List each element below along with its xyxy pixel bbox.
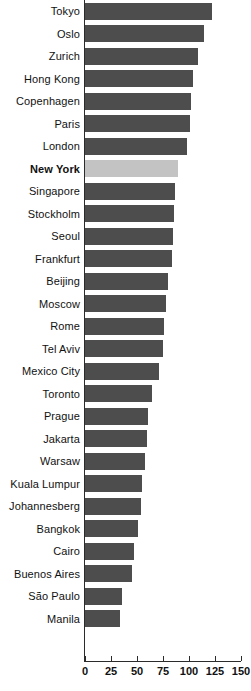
- bar-row-label: Warsaw: [40, 450, 80, 473]
- bar-row-label: Toronto: [43, 383, 80, 406]
- x-axis-tick-label: 150: [232, 665, 250, 677]
- bar-row-label: Prague: [44, 405, 80, 428]
- bar: [85, 48, 198, 65]
- bar: [85, 93, 191, 110]
- bar: [85, 250, 172, 267]
- bar-row: Hong Kong: [0, 68, 251, 91]
- x-axis-tick-label: 75: [157, 665, 169, 677]
- bar: [85, 295, 166, 312]
- bar-row: Rome: [0, 315, 251, 338]
- bar-row: Prague: [0, 405, 251, 428]
- bar-row-label: Paris: [54, 113, 80, 136]
- bar: [85, 610, 120, 627]
- bar-row: Tel Aviv: [0, 338, 251, 361]
- bar-row: Kuala Lumpur: [0, 473, 251, 496]
- bar-row: Stockholm: [0, 203, 251, 226]
- bar-rows: TokyoOsloZurichHong KongCopenhagenParisL…: [0, 0, 251, 630]
- x-axis-line: [85, 661, 241, 662]
- bar-row-label: São Paulo: [28, 585, 80, 608]
- bar: [85, 25, 204, 42]
- bar-row-label: Hong Kong: [24, 68, 80, 91]
- bar-row-label: Rome: [50, 315, 80, 338]
- bar-track: [85, 248, 251, 271]
- x-axis-tick-mark: [215, 656, 216, 661]
- bar-row-label: Seoul: [51, 225, 80, 248]
- bar-track: [85, 473, 251, 496]
- bar-track: [85, 23, 251, 46]
- bar-row-label: Buenos Aires: [14, 563, 80, 586]
- bar: [85, 228, 173, 245]
- bar-track: [85, 293, 251, 316]
- bar-row-label: Zurich: [49, 45, 80, 68]
- bar-row: Moscow: [0, 293, 251, 316]
- x-axis-tick-mark: [241, 656, 242, 661]
- bar-track: [85, 383, 251, 406]
- bar-track: [85, 203, 251, 226]
- bar-track: [85, 180, 251, 203]
- bar: [85, 273, 168, 290]
- bar-track: [85, 518, 251, 541]
- bar-row-label: Tokyo: [51, 0, 80, 23]
- bar: [85, 160, 178, 177]
- bar: [85, 565, 132, 582]
- bar-row: Bangkok: [0, 518, 251, 541]
- x-axis-tick-mark: [189, 656, 190, 661]
- bar-row: Oslo: [0, 23, 251, 46]
- x-axis-tick-label: 100: [180, 665, 198, 677]
- bar-track: [85, 225, 251, 248]
- bar-row-label: London: [43, 135, 80, 158]
- bar-row-label: Mexico City: [22, 360, 80, 383]
- bar-row: Seoul: [0, 225, 251, 248]
- x-axis-tick-mark: [85, 656, 86, 661]
- bar: [85, 318, 164, 335]
- x-axis-tick-mark: [163, 656, 164, 661]
- bar-track: [85, 608, 251, 631]
- bar-row-label: Stockholm: [28, 203, 80, 226]
- bar-row: Singapore: [0, 180, 251, 203]
- bar-track: [85, 360, 251, 383]
- bar: [85, 385, 152, 402]
- x-axis: 0255075100125150: [0, 661, 251, 691]
- x-axis-tick-label: 0: [82, 665, 88, 677]
- bar-row: Frankfurt: [0, 248, 251, 271]
- bar-track: [85, 450, 251, 473]
- bar-row-label: Moscow: [39, 293, 80, 316]
- bar-track: [85, 158, 251, 181]
- bar-row: Beijing: [0, 270, 251, 293]
- bar: [85, 363, 159, 380]
- bar-track: [85, 113, 251, 136]
- bar: [85, 138, 187, 155]
- x-axis-tick-label: 50: [131, 665, 143, 677]
- bar: [85, 430, 147, 447]
- bar-track: [85, 45, 251, 68]
- bar-track: [85, 495, 251, 518]
- bar-row-label: Frankfurt: [35, 248, 80, 271]
- bar: [85, 588, 122, 605]
- bar-row-label: Manila: [47, 608, 80, 631]
- bar: [85, 408, 148, 425]
- bar-row: Mexico City: [0, 360, 251, 383]
- bar: [85, 340, 163, 357]
- bar: [85, 520, 138, 537]
- bar: [85, 498, 141, 515]
- bar-track: [85, 0, 251, 23]
- bar-track: [85, 338, 251, 361]
- bar-row: Cairo: [0, 540, 251, 563]
- bar-row-label: Kuala Lumpur: [10, 473, 80, 496]
- bar-track: [85, 585, 251, 608]
- bar-row: Tokyo: [0, 0, 251, 23]
- bar-track: [85, 90, 251, 113]
- bar-track: [85, 540, 251, 563]
- bar-track: [85, 563, 251, 586]
- bar-row: Johannesberg: [0, 495, 251, 518]
- bar-row-label: Tel Aviv: [42, 338, 80, 361]
- bar-track: [85, 405, 251, 428]
- bar-row-label: Cairo: [53, 540, 80, 563]
- bar-row: Warsaw: [0, 450, 251, 473]
- bar-row: Zurich: [0, 45, 251, 68]
- x-axis-tick-label: 125: [206, 665, 224, 677]
- bar-row-label: New York: [30, 158, 80, 181]
- bar-row: São Paulo: [0, 585, 251, 608]
- bar-row-label: Singapore: [29, 180, 80, 203]
- bar-track: [85, 428, 251, 451]
